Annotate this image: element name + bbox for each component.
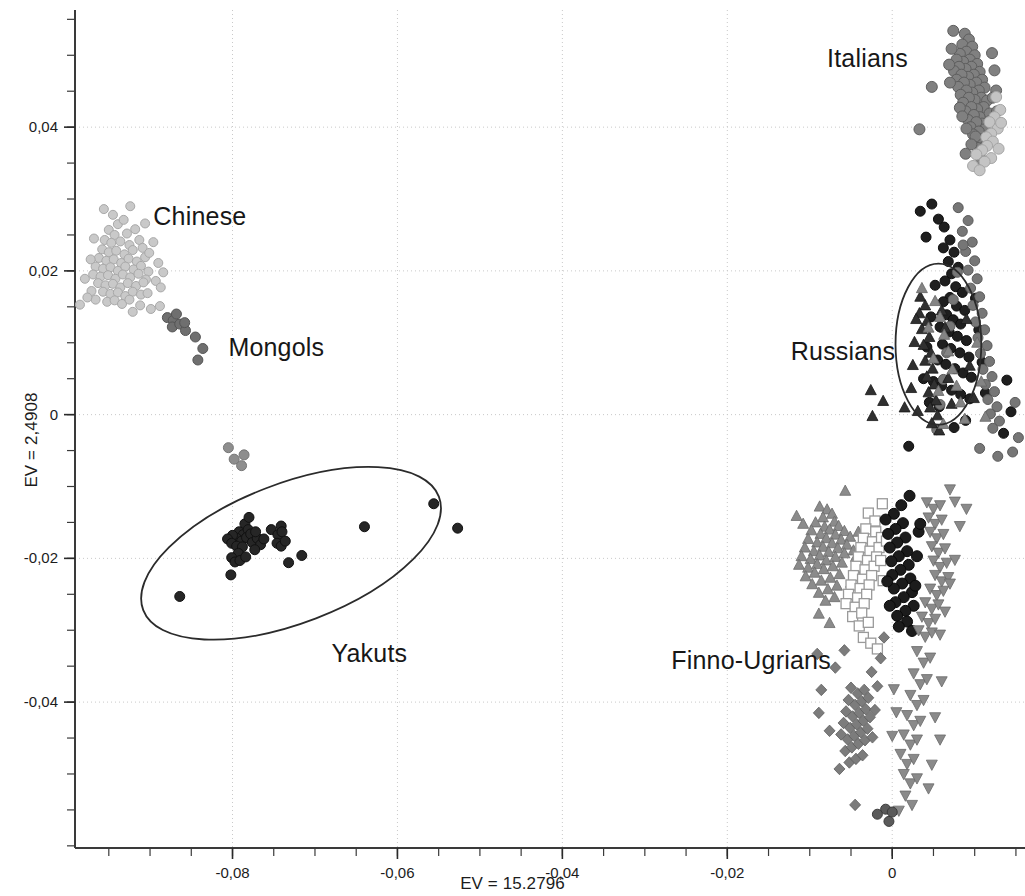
series-finnougrians-bottom-mixed (872, 804, 897, 826)
data-point (839, 645, 850, 657)
data-point (156, 283, 165, 292)
data-point (939, 222, 949, 232)
data-point (895, 749, 906, 759)
data-point (948, 25, 959, 36)
data-point (988, 423, 998, 433)
data-point (123, 279, 132, 288)
data-point (861, 524, 871, 534)
data-point (91, 295, 100, 304)
data-point (987, 48, 998, 59)
data-point (907, 359, 918, 369)
data-point (905, 740, 916, 750)
data-point (149, 238, 158, 247)
data-point (893, 621, 904, 632)
data-point (145, 248, 154, 257)
data-point (909, 336, 920, 346)
series-yakuts-outliers-gray (223, 443, 249, 471)
x-tick-label: -0,08 (193, 864, 273, 881)
data-point (99, 205, 108, 214)
data-point (453, 523, 463, 533)
data-point (834, 763, 845, 775)
y-tick-label: 0 (0, 406, 58, 423)
data-point (915, 680, 926, 690)
data-point (966, 372, 976, 382)
data-point (155, 302, 164, 311)
data-point (128, 246, 137, 255)
data-point (904, 490, 915, 501)
data-point (193, 355, 203, 365)
data-point (888, 685, 899, 695)
x-tick-label: -0,04 (522, 864, 602, 881)
series-finnougrians-down-triangles (887, 485, 972, 817)
data-point (876, 556, 886, 566)
data-point (297, 550, 307, 560)
data-point (857, 608, 867, 618)
data-point (198, 344, 208, 354)
data-point (914, 124, 925, 135)
data-point (1002, 375, 1012, 385)
data-point (974, 165, 985, 176)
data-point (80, 274, 89, 283)
data-point (863, 617, 873, 627)
data-point (944, 77, 955, 88)
data-point (134, 269, 143, 278)
data-point (930, 713, 941, 723)
data-point (867, 571, 877, 581)
data-point (883, 528, 894, 539)
data-point (906, 382, 917, 392)
data-point (141, 219, 150, 228)
data-point (911, 700, 922, 710)
data-point (107, 238, 116, 247)
data-point (190, 332, 200, 342)
data-point (940, 276, 950, 286)
data-point (916, 282, 927, 292)
data-point (935, 735, 946, 745)
data-point (940, 607, 951, 617)
data-point (223, 443, 233, 453)
data-point (949, 247, 959, 257)
y-tick-label: -0,04 (0, 693, 58, 710)
data-point (898, 769, 909, 779)
data-point (961, 336, 971, 346)
data-point (250, 545, 260, 555)
data-point (930, 280, 940, 290)
data-point (139, 278, 148, 287)
data-point (171, 309, 181, 319)
data-point (866, 666, 877, 678)
data-point (915, 206, 925, 216)
data-point (1010, 397, 1020, 407)
y-tick-label: 0,04 (0, 118, 58, 135)
data-point (957, 111, 968, 122)
data-point (954, 522, 965, 532)
data-point (429, 499, 439, 509)
data-point (830, 662, 841, 674)
data-point (125, 295, 134, 304)
cluster-label-mongols: Mongols (228, 333, 324, 362)
data-point (993, 451, 1003, 461)
data-point (284, 558, 294, 568)
series-mongols (162, 309, 207, 365)
data-point (900, 791, 911, 801)
data-point (891, 708, 902, 718)
data-point (83, 293, 92, 302)
data-point (867, 410, 878, 420)
data-point (902, 711, 913, 721)
data-point (975, 292, 985, 302)
data-point (143, 289, 152, 298)
data-point (926, 81, 937, 92)
data-point (887, 731, 898, 741)
data-point (864, 580, 874, 590)
data-point (146, 304, 155, 313)
data-point (239, 450, 249, 460)
data-point (226, 570, 236, 580)
data-point (816, 684, 827, 696)
data-point (119, 215, 128, 224)
data-point (936, 677, 947, 687)
data-point (824, 617, 835, 627)
data-point (926, 760, 937, 770)
y-tick-label: 0,02 (0, 262, 58, 279)
data-point (953, 203, 963, 213)
data-point (862, 589, 872, 599)
data-point (882, 576, 893, 587)
data-point (898, 730, 909, 740)
